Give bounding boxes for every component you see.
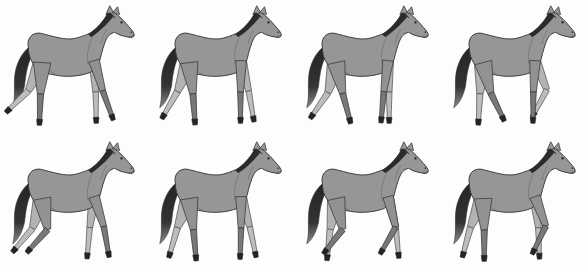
horse-illustration [147, 136, 294, 271]
eye [267, 21, 269, 23]
horse-illustration [0, 0, 147, 135]
eye [120, 21, 122, 23]
nostril [130, 31, 132, 33]
horse-illustration [0, 136, 147, 271]
tail [454, 47, 473, 108]
nostril [424, 167, 426, 169]
horse-frame-6 [147, 135, 294, 271]
near-front-leg [530, 60, 541, 123]
nostril [424, 31, 426, 33]
horse-frame-5 [0, 135, 147, 271]
near-front-leg [236, 196, 247, 259]
eye [120, 157, 122, 159]
horse-walk-sequence-sheet [0, 0, 588, 271]
nostril [130, 167, 132, 169]
horse-illustration [294, 136, 441, 271]
eye [414, 157, 416, 159]
horse-frame-4 [441, 0, 588, 135]
eye [561, 157, 563, 159]
nostril [571, 31, 573, 33]
nostril [277, 167, 279, 169]
nostril [571, 167, 573, 169]
near-hind-leg [180, 62, 197, 126]
eye [561, 21, 563, 23]
horse-illustration [294, 0, 441, 135]
nostril [277, 31, 279, 33]
horse-frame-8 [441, 135, 588, 271]
horse-illustration [441, 0, 588, 135]
near-hind-leg [180, 197, 198, 261]
near-hind-leg [33, 62, 51, 125]
tail [307, 182, 326, 243]
horse-illustration [441, 136, 588, 271]
horse-frame-7 [294, 135, 441, 271]
horse-illustration [147, 0, 294, 135]
near-front-leg [236, 61, 247, 124]
eye [414, 21, 416, 23]
horse-frame-2 [147, 0, 294, 135]
horse-frame-3 [294, 0, 441, 135]
near-hind-leg [474, 198, 492, 261]
eye [267, 157, 269, 159]
horse-frame-1 [0, 0, 147, 135]
